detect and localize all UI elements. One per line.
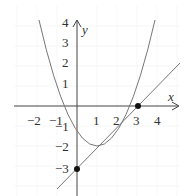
x-tick-label: 3 [133, 113, 140, 128]
x-tick-label: 1 [93, 113, 100, 128]
grid [14, 6, 180, 196]
x-axis-label: x [167, 89, 174, 104]
coordinate-plane: x y −2 −1 1 2 3 4 4 3 2 1 −1 −2 −3 [0, 0, 190, 196]
x-tick-label: 2 [113, 113, 120, 128]
y-tick-label: −1 [55, 119, 69, 134]
y-tick-label: −3 [55, 161, 69, 176]
y-tick-label: 4 [62, 15, 69, 30]
y-tick-label: 1 [62, 76, 69, 91]
x-tick-label: 4 [154, 113, 161, 128]
y-tick-label: −2 [55, 139, 69, 154]
y-axis-label: y [80, 22, 88, 37]
y-tick-label: 3 [62, 35, 69, 50]
x-tick-label: −2 [27, 113, 41, 128]
intersection-point-3-0 [135, 103, 141, 109]
intersection-point-0-neg3 [74, 166, 80, 172]
y-tick-label: 2 [62, 55, 69, 70]
